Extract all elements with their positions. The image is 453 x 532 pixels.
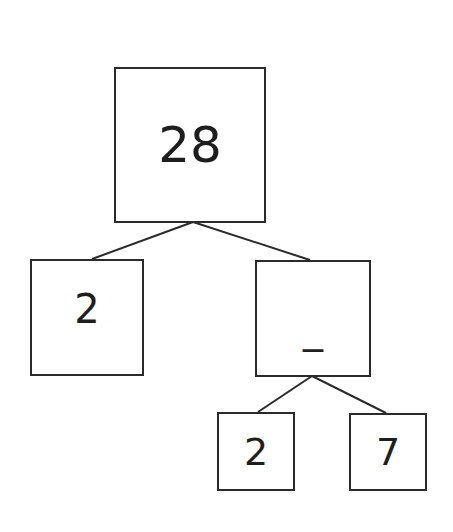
edge-root-right	[193, 222, 310, 260]
prime-node-right: 7	[349, 413, 427, 491]
left-factor-value: 2	[74, 286, 99, 332]
prime-right-value: 7	[376, 430, 400, 474]
root-value: 28	[158, 116, 222, 174]
prime-left-value: 2	[244, 430, 268, 474]
edge-right-br	[312, 376, 386, 413]
root-node: 28	[114, 67, 266, 223]
prime-node-left: 2	[217, 412, 295, 491]
edge-root-left	[92, 222, 193, 259]
blank-factor-value: _	[303, 305, 323, 351]
factor-node-right-blank[interactable]: _	[255, 260, 371, 377]
factor-node-left: 2	[30, 259, 144, 376]
edge-right-bl	[258, 376, 312, 412]
